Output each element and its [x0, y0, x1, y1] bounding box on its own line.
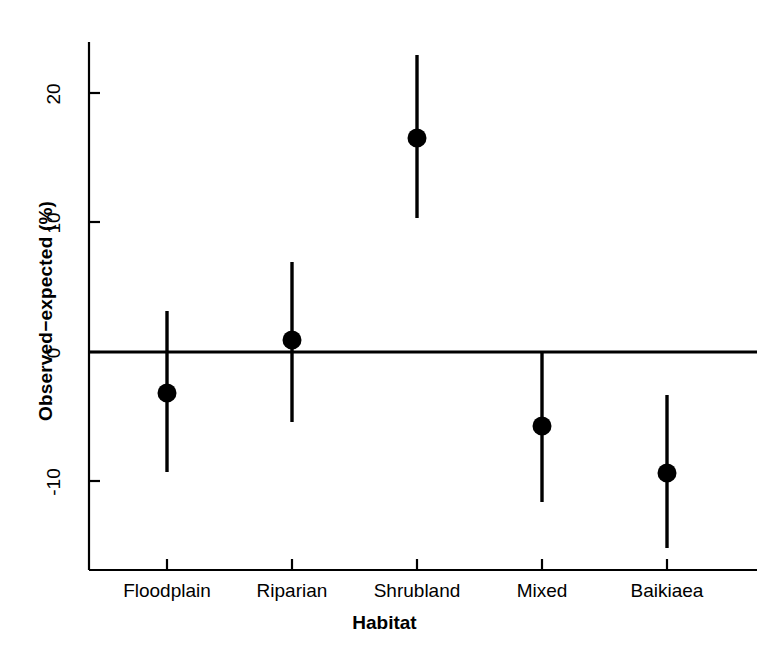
- datapoint-baikiaea: [658, 395, 677, 548]
- marker-riparian: [283, 331, 302, 350]
- y-axis-title: Observed−expected (%): [35, 161, 57, 461]
- plot-area: 20 10 0 -10 Floodplain Riparian Shrublan…: [0, 0, 769, 658]
- marker-floodplain: [158, 384, 177, 403]
- y-tick-label-20: 20: [43, 64, 65, 124]
- y-tick-label-neg10: -10: [43, 452, 65, 512]
- datapoint-floodplain: [158, 311, 177, 472]
- x-tick-label-baikiaea: Baikiaea: [577, 580, 757, 602]
- marker-shrubland: [408, 129, 427, 148]
- datapoint-riparian: [283, 262, 302, 422]
- datapoint-mixed: [533, 353, 552, 502]
- marker-mixed: [533, 417, 552, 436]
- datapoint-shrubland: [408, 55, 427, 218]
- x-axis-title: Habitat: [0, 612, 769, 634]
- figure-container: 20 10 0 -10 Floodplain Riparian Shrublan…: [0, 0, 769, 658]
- chart-canvas: [0, 0, 769, 658]
- marker-baikiaea: [658, 464, 677, 483]
